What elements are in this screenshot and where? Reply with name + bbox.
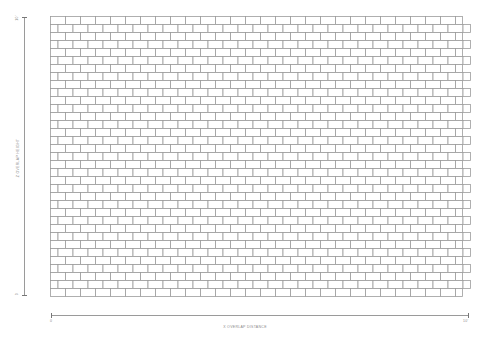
brick <box>396 97 411 105</box>
brick <box>111 33 126 41</box>
brick <box>201 65 216 73</box>
brick <box>298 57 313 65</box>
brick <box>456 161 463 169</box>
brick <box>96 17 111 25</box>
brick <box>321 161 336 169</box>
brick <box>456 129 463 137</box>
brick <box>313 249 328 257</box>
brick <box>328 265 343 273</box>
brick <box>426 273 441 281</box>
brick <box>463 169 471 177</box>
brick <box>216 33 231 41</box>
brick <box>216 49 231 57</box>
x-axis-left-tick <box>51 313 52 318</box>
brick <box>388 25 403 33</box>
brick <box>418 89 433 97</box>
brick <box>51 41 59 49</box>
brick <box>103 121 118 129</box>
brick <box>373 169 388 177</box>
brick <box>253 201 268 209</box>
brick <box>373 25 388 33</box>
brick <box>201 193 216 201</box>
brick <box>73 249 88 257</box>
brick <box>66 33 81 41</box>
brick <box>133 201 148 209</box>
brick <box>343 73 358 81</box>
brick <box>283 25 298 33</box>
brick <box>51 233 59 241</box>
brick <box>261 209 276 217</box>
brick <box>261 289 276 297</box>
brick <box>66 273 81 281</box>
brick <box>411 81 426 89</box>
brick <box>358 137 373 145</box>
brick <box>51 169 59 177</box>
brick <box>283 185 298 193</box>
brick <box>223 41 238 49</box>
brick <box>73 89 88 97</box>
brick <box>103 25 118 33</box>
brick <box>351 257 366 265</box>
brick <box>111 17 126 25</box>
brick <box>51 193 66 201</box>
brick <box>178 281 193 289</box>
brick <box>148 249 163 257</box>
brick <box>313 57 328 65</box>
brick <box>291 225 306 233</box>
brick <box>381 257 396 265</box>
brick <box>246 273 261 281</box>
brick <box>231 161 246 169</box>
brick <box>231 273 246 281</box>
y-axis-line <box>24 17 25 296</box>
brick <box>58 201 73 209</box>
brick <box>306 225 321 233</box>
brick <box>283 233 298 241</box>
brick <box>96 289 111 297</box>
brick <box>111 225 126 233</box>
brick <box>88 121 103 129</box>
brick <box>321 193 336 201</box>
brick <box>366 81 381 89</box>
brick <box>351 241 366 249</box>
brick <box>88 57 103 65</box>
brick <box>388 185 403 193</box>
brick <box>328 153 343 161</box>
brick <box>216 145 231 153</box>
brick <box>111 81 126 89</box>
brick <box>126 49 141 57</box>
brick <box>351 129 366 137</box>
brick <box>216 209 231 217</box>
brick <box>381 289 396 297</box>
brick <box>148 121 163 129</box>
brick <box>426 145 441 153</box>
brick <box>313 121 328 129</box>
brick <box>111 145 126 153</box>
brick <box>88 201 103 209</box>
brick <box>358 121 373 129</box>
brick <box>141 241 156 249</box>
brick <box>351 17 366 25</box>
brick <box>441 81 456 89</box>
brick <box>403 185 418 193</box>
brick <box>186 225 201 233</box>
brick <box>171 241 186 249</box>
brick <box>126 65 141 73</box>
brick <box>178 89 193 97</box>
brick <box>171 65 186 73</box>
brick <box>253 217 268 225</box>
brick <box>118 105 133 113</box>
brick <box>343 105 358 113</box>
brick <box>396 65 411 73</box>
brick <box>336 273 351 281</box>
brick <box>96 225 111 233</box>
brick <box>373 233 388 241</box>
brick <box>388 265 403 273</box>
brick <box>381 33 396 41</box>
brick <box>448 185 463 193</box>
brick <box>208 57 223 65</box>
brick <box>88 233 103 241</box>
brick <box>268 217 283 225</box>
brick <box>283 73 298 81</box>
brick <box>388 57 403 65</box>
brick <box>321 33 336 41</box>
